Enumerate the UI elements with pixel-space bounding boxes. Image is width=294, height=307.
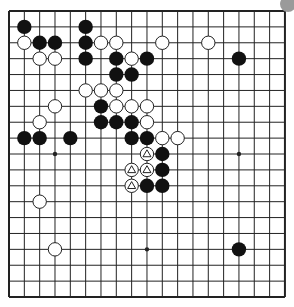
white-stone[interactable]: [48, 52, 61, 65]
white-stone[interactable]: [48, 100, 61, 113]
white-stone-marked[interactable]: [125, 179, 138, 192]
white-stone[interactable]: [48, 243, 61, 256]
black-stone[interactable]: [155, 179, 169, 193]
black-stone[interactable]: [155, 147, 169, 161]
white-stone[interactable]: [33, 52, 46, 65]
white-stone[interactable]: [110, 100, 123, 113]
white-stone[interactable]: [79, 84, 92, 97]
go-board-canvas[interactable]: [0, 0, 294, 307]
black-stone[interactable]: [232, 51, 246, 65]
black-stone[interactable]: [78, 20, 92, 34]
black-stone[interactable]: [232, 242, 246, 256]
black-stone[interactable]: [124, 131, 138, 145]
white-stone[interactable]: [33, 116, 46, 129]
black-stone[interactable]: [94, 115, 108, 129]
white-stone[interactable]: [125, 100, 138, 113]
black-stone[interactable]: [17, 20, 31, 34]
black-stone[interactable]: [140, 51, 154, 65]
black-stone[interactable]: [17, 131, 31, 145]
black-stone[interactable]: [140, 179, 154, 193]
white-stone[interactable]: [110, 36, 123, 49]
black-stone[interactable]: [155, 163, 169, 177]
go-board[interactable]: [0, 0, 294, 307]
white-stone[interactable]: [156, 36, 169, 49]
star-point-icon: [237, 152, 241, 156]
white-stone[interactable]: [202, 36, 215, 49]
white-stone[interactable]: [156, 131, 169, 144]
black-stone[interactable]: [32, 131, 46, 145]
black-stone[interactable]: [109, 51, 123, 65]
star-point-icon: [53, 152, 57, 156]
white-stone[interactable]: [140, 100, 153, 113]
white-stone-marked[interactable]: [140, 147, 153, 160]
black-stone[interactable]: [78, 36, 92, 50]
white-stone[interactable]: [110, 84, 123, 97]
black-stone[interactable]: [63, 131, 77, 145]
white-stone-marked[interactable]: [125, 163, 138, 176]
black-stone[interactable]: [78, 51, 92, 65]
white-stone[interactable]: [94, 36, 107, 49]
black-stone[interactable]: [109, 67, 123, 81]
white-stone[interactable]: [33, 195, 46, 208]
black-stone[interactable]: [124, 115, 138, 129]
black-stone[interactable]: [48, 36, 62, 50]
white-stone[interactable]: [125, 52, 138, 65]
white-stone[interactable]: [18, 36, 31, 49]
black-stone[interactable]: [109, 115, 123, 129]
black-stone[interactable]: [140, 131, 154, 145]
white-stone-marked[interactable]: [140, 163, 153, 176]
star-point-icon: [145, 247, 149, 251]
black-stone[interactable]: [32, 36, 46, 50]
white-stone[interactable]: [171, 131, 184, 144]
black-stone[interactable]: [124, 67, 138, 81]
black-stone[interactable]: [94, 99, 108, 113]
white-stone[interactable]: [140, 116, 153, 129]
white-stone[interactable]: [94, 84, 107, 97]
